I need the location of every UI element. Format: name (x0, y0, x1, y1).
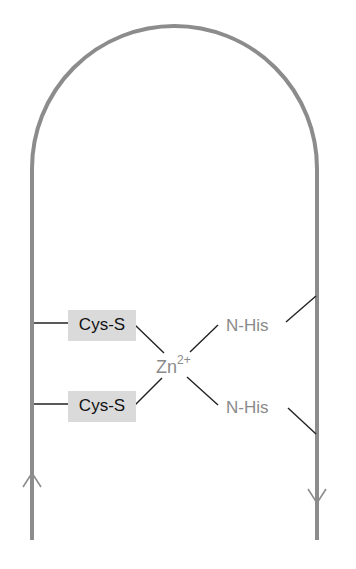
cys-bottom-label: Cys-S (68, 391, 136, 422)
his-bottom-label: N-His (226, 398, 269, 418)
cys-top-label: Cys-S (68, 310, 136, 341)
protein-backbone (0, 0, 356, 569)
zinc-charge: 2+ (177, 353, 191, 367)
zinc-symbol: Zn (156, 357, 177, 377)
his-top-sidechain (286, 296, 316, 322)
bond-his-bottom (187, 377, 218, 405)
backbone-loop (32, 26, 317, 540)
bond-cys-top (135, 325, 164, 353)
his-top-label: N-His (226, 316, 269, 336)
zinc-ion-label: Zn2+ (156, 355, 191, 378)
bond-cys-bottom (135, 378, 162, 405)
his-bottom-sidechain (288, 408, 316, 434)
bond-his-top (190, 325, 218, 352)
